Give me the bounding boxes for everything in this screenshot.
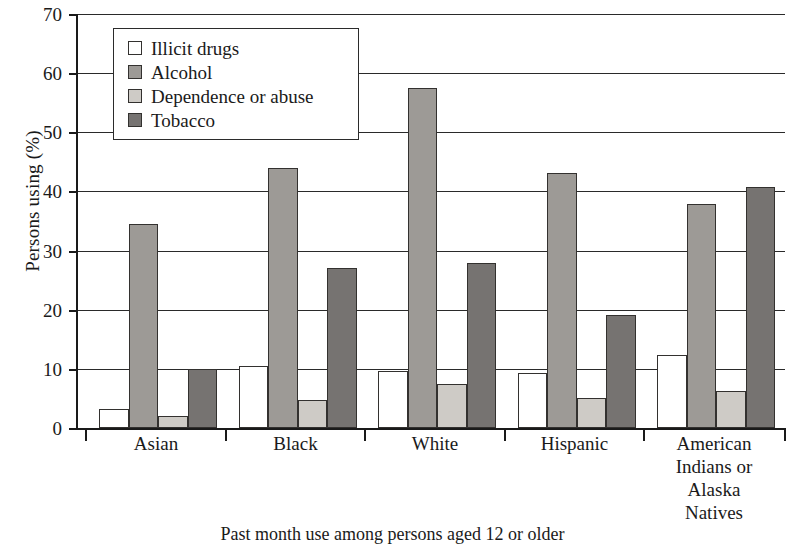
x-category-line: American bbox=[639, 432, 789, 455]
x-category-line: Asian bbox=[81, 432, 231, 455]
x-category-line: Natives bbox=[639, 501, 789, 524]
x-category-line: White bbox=[360, 432, 510, 455]
x-axis-title: Past month use among persons aged 12 or … bbox=[0, 524, 785, 545]
bar-asian-tobacco bbox=[188, 369, 218, 428]
legend-label: Tobacco bbox=[151, 111, 215, 130]
legend-label: Dependence or abuse bbox=[151, 87, 313, 106]
y-tick-20 bbox=[69, 310, 78, 312]
legend-swatch-icon bbox=[128, 113, 142, 127]
y-tick-40 bbox=[69, 191, 78, 193]
y-tick-label-60: 60 bbox=[14, 64, 62, 83]
y-tick-label-20: 20 bbox=[14, 300, 62, 319]
bar-hispanic-tobacco bbox=[606, 315, 636, 428]
legend-item-illicit-drugs[interactable]: Illicit drugs bbox=[128, 36, 358, 60]
x-category-label-white: White bbox=[360, 432, 510, 455]
x-category-label-black: Black bbox=[221, 432, 371, 455]
legend-label: Alcohol bbox=[151, 63, 212, 82]
x-category-line: Indians or bbox=[639, 455, 789, 478]
bar-hispanic-illicit-drugs bbox=[518, 373, 548, 428]
bar-asian-alcohol bbox=[129, 224, 159, 428]
x-category-line: Alaska bbox=[639, 478, 789, 501]
bar-asian-dependence-or-abuse bbox=[158, 416, 188, 428]
y-tick-60 bbox=[69, 73, 78, 75]
bar-american-dependence-or-abuse bbox=[716, 391, 746, 428]
y-tick-50 bbox=[69, 132, 78, 134]
bar-asian-illicit-drugs bbox=[99, 409, 129, 428]
legend-swatch-icon bbox=[128, 89, 142, 103]
bar-black-tobacco bbox=[327, 268, 357, 428]
y-tick-label-40: 40 bbox=[14, 182, 62, 201]
gridline-70 bbox=[78, 14, 785, 15]
bar-white-dependence-or-abuse bbox=[437, 384, 467, 428]
x-category-line: Black bbox=[221, 432, 371, 455]
y-tick-label-70: 70 bbox=[14, 5, 62, 24]
bar-american-alcohol bbox=[687, 204, 717, 428]
bar-black-illicit-drugs bbox=[239, 366, 269, 428]
bar-hispanic-dependence-or-abuse bbox=[577, 398, 607, 428]
bar-american-illicit-drugs bbox=[657, 355, 687, 428]
y-tick-10 bbox=[69, 369, 78, 371]
bar-black-alcohol bbox=[268, 168, 298, 428]
bar-white-alcohol bbox=[408, 88, 438, 428]
y-tick-label-0: 0 bbox=[14, 419, 62, 438]
y-tick-0 bbox=[69, 428, 78, 430]
bar-black-dependence-or-abuse bbox=[298, 400, 328, 428]
legend-item-tobacco[interactable]: Tobacco bbox=[128, 108, 358, 132]
y-tick-label-30: 30 bbox=[14, 241, 62, 260]
x-category-label-hispanic: Hispanic bbox=[500, 432, 650, 455]
x-category-label-asian: Asian bbox=[81, 432, 231, 455]
legend-swatch-icon bbox=[128, 41, 142, 55]
chart-legend: Illicit drugsAlcoholDependence or abuseT… bbox=[113, 28, 359, 140]
legend-swatch-icon bbox=[128, 65, 142, 79]
y-tick-70 bbox=[69, 14, 78, 16]
x-category-label-american: AmericanIndians orAlaskaNatives bbox=[639, 432, 789, 524]
x-category-line: Hispanic bbox=[500, 432, 650, 455]
y-tick-label-10: 10 bbox=[14, 359, 62, 378]
bar-hispanic-alcohol bbox=[547, 173, 577, 428]
bar-white-tobacco bbox=[467, 263, 497, 428]
bar-american-tobacco bbox=[746, 187, 776, 428]
y-tick-30 bbox=[69, 251, 78, 253]
bar-white-illicit-drugs bbox=[378, 371, 408, 428]
gridline-0 bbox=[78, 428, 785, 430]
legend-item-alcohol[interactable]: Alcohol bbox=[128, 60, 358, 84]
legend-item-dependence-or-abuse[interactable]: Dependence or abuse bbox=[128, 84, 358, 108]
y-tick-label-50: 50 bbox=[14, 123, 62, 142]
legend-label: Illicit drugs bbox=[151, 39, 239, 58]
